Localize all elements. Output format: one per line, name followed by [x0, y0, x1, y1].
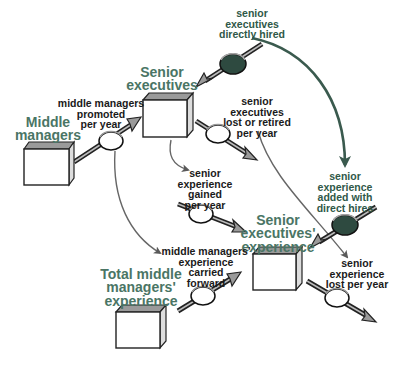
connector-promoted-to-experience-carried: [115, 151, 160, 253]
stock-box-middle-managers[interactable]: [24, 142, 74, 185]
connector-senior-executives-to-experience-gained: [170, 140, 188, 170]
stock-box-total-middle-managers-experience[interactable]: [116, 305, 166, 348]
flow-label-middle-managers-promoted: middle managers promoted per year: [58, 98, 144, 130]
flow-label-senior-executives-lost: senior executives lost or retired per ye…: [223, 96, 291, 138]
flow-label-middle-managers-experience-carried: middle managers' experience carried forw…: [162, 246, 251, 288]
valve-senior-experience-lost[interactable]: [325, 289, 349, 307]
flow-label-senior-experience-lost: senior experience lost per year: [326, 258, 388, 290]
valve-middle-managers-promoted[interactable]: [99, 132, 123, 150]
valve-middle-managers-experience-carried[interactable]: [191, 287, 215, 305]
flow-label-senior-experience-added: senior experience added with direct hire…: [317, 171, 374, 213]
stock-box-senior-executives[interactable]: [143, 93, 193, 137]
valve-senior-experience-added[interactable]: [332, 215, 358, 235]
stock-label-senior-executives: Senior executives: [126, 66, 198, 93]
valve-senior-executives-directly-hired[interactable]: [220, 54, 246, 74]
flow-label-senior-executives-directly-hired: senior executives directly hired: [219, 8, 285, 40]
flow-label-senior-experience-gained: senior experience gained per year: [178, 168, 233, 210]
stock-label-senior-executives-experience: Senior executives' experience: [241, 214, 316, 254]
